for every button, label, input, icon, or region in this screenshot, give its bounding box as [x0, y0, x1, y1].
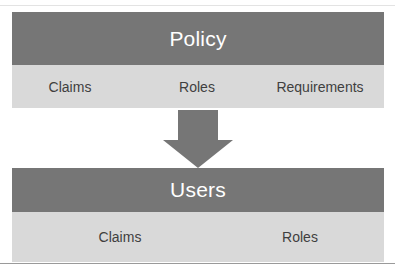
page-rule-bottom [0, 263, 395, 264]
down-arrow-icon [163, 110, 233, 168]
policy-items-band: Claims Roles Requirements [12, 65, 384, 108]
users-item-claims: Claims [99, 229, 142, 245]
policy-title: Policy [12, 12, 384, 65]
policy-item-roles: Roles [179, 79, 215, 95]
users-title: Users [12, 168, 384, 212]
users-item-roles: Roles [282, 229, 318, 245]
policy-node: Policy Claims Roles Requirements [12, 12, 384, 108]
page-rule-top [0, 5, 395, 6]
users-items-band: Claims Roles [12, 212, 384, 262]
users-node: Users Claims Roles [12, 168, 384, 262]
policy-item-requirements: Requirements [276, 79, 363, 95]
policy-item-claims: Claims [49, 79, 92, 95]
diagram-canvas: Policy Claims Roles Requirements Users C… [0, 0, 395, 277]
